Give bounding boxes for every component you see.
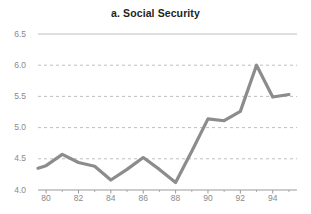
y-axis-tick-label: 4.5 xyxy=(2,154,26,163)
chart-figure: a. Social Security 4.04.55.05.56.06.5808… xyxy=(0,0,311,214)
y-axis-tick-label: 5.0 xyxy=(2,123,26,132)
chart-plot-area xyxy=(0,0,311,214)
x-axis-tick-label: 84 xyxy=(101,194,121,203)
y-axis-tick-label: 6.5 xyxy=(2,30,26,39)
y-axis-tick-label: 4.0 xyxy=(2,186,26,195)
x-axis-tick-label: 92 xyxy=(230,194,250,203)
data-line-1 xyxy=(38,65,289,182)
x-axis-tick-label: 82 xyxy=(68,194,88,203)
x-axis-tick-label: 80 xyxy=(36,194,56,203)
x-axis-tick-label: 94 xyxy=(263,194,283,203)
x-axis-tick-label: 86 xyxy=(133,194,153,203)
y-axis-tick-label: 6.0 xyxy=(2,61,26,70)
x-axis-tick-label: 88 xyxy=(166,194,186,203)
y-axis-tick-label: 5.5 xyxy=(2,92,26,101)
x-axis-tick-label: 90 xyxy=(198,194,218,203)
